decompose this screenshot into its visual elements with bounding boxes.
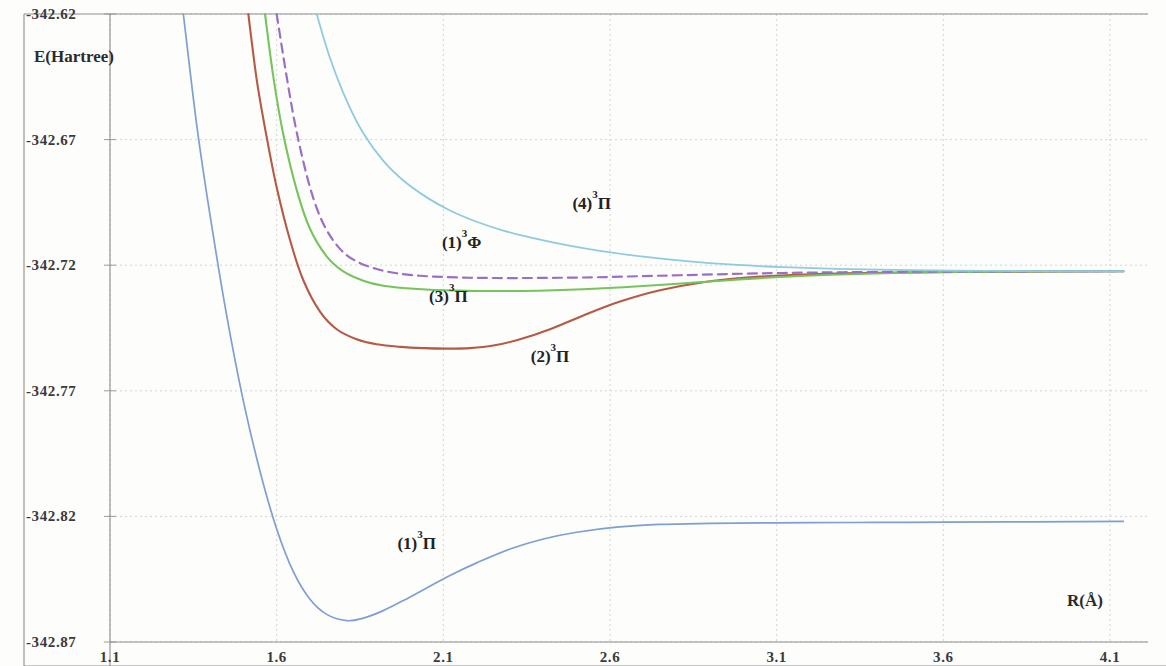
y-axis-title: E(Hartree) — [34, 47, 114, 66]
x-axis-title: R(Å) — [1067, 591, 1103, 610]
y-tick-label: -342.62 — [26, 6, 76, 22]
y-tick-label: -342.87 — [26, 634, 76, 650]
x-tick-label: 1.6 — [266, 649, 287, 665]
x-tick-label: 2.1 — [433, 649, 454, 665]
x-tick-label: 4.1 — [1100, 649, 1121, 665]
x-tick-label: 3.1 — [766, 649, 787, 665]
x-tick-label: 1.1 — [100, 649, 121, 665]
x-tick-label: 3.6 — [933, 649, 954, 665]
y-tick-label: -342.82 — [26, 508, 76, 524]
y-tick-label: -342.72 — [26, 257, 76, 273]
potential-energy-curve-chart: -342.62-342.67-342.72-342.77-342.82-342.… — [0, 0, 1166, 666]
x-tick-label: 2.6 — [600, 649, 621, 665]
figure-container: -342.62-342.67-342.72-342.77-342.82-342.… — [0, 0, 1166, 666]
chart-background — [0, 0, 1166, 666]
y-tick-label: -342.77 — [26, 383, 76, 399]
y-tick-label: -342.67 — [26, 132, 76, 148]
